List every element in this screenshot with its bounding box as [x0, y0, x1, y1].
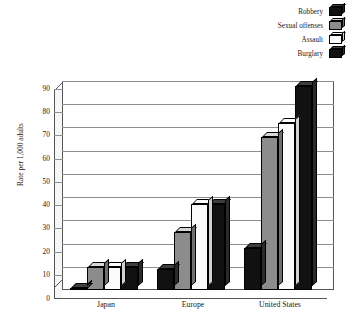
bar-side-face — [174, 261, 179, 286]
legend-item-assault: Assault — [225, 34, 345, 47]
gridline — [62, 104, 334, 105]
legend-swatch-face-assault — [329, 35, 342, 44]
legend-swatch-face-burglary — [329, 49, 342, 58]
legend-swatch-face-robbery — [329, 7, 342, 16]
bar-front-face — [244, 248, 261, 290]
legend-swatch-face-sexual-offenses — [329, 21, 342, 30]
gridline — [62, 81, 334, 82]
gridline-depth — [54, 182, 63, 183]
y-tick-label: 40 — [24, 201, 50, 208]
y-tick-label: 90 — [24, 85, 50, 92]
legend-item-sexual-offenses: Sexual offenses — [225, 20, 345, 33]
bar-side-face — [312, 77, 317, 286]
bar-front-face — [87, 267, 104, 290]
legend-swatch-side-sexual-offenses — [342, 17, 345, 28]
legend-swatch-burglary — [329, 49, 345, 60]
legend-label-burglary: Burglary — [298, 50, 323, 59]
bar-side-face — [191, 224, 196, 286]
axis-bottom-bevel — [53, 278, 65, 290]
x-axis-line — [54, 298, 327, 299]
y-tick-label: 80 — [24, 108, 50, 115]
bar-japan-robbery — [70, 288, 87, 290]
legend-swatch-side-assault — [342, 31, 345, 42]
axis-top-bevel — [53, 81, 65, 93]
y-tick-label: 0 — [24, 295, 50, 302]
legend-swatch-sexual-offenses — [329, 21, 345, 32]
gridline-depth — [54, 135, 63, 136]
gridline-depth — [54, 252, 63, 253]
bar-side-face — [208, 196, 213, 286]
legend-label-assault: Assault — [301, 36, 323, 45]
bar-europe-robbery — [157, 269, 174, 290]
y-tick-label: 10 — [24, 271, 50, 278]
x-axis-labels: JapanEuropeUnited States — [52, 300, 352, 314]
plot-area: 0102030405060708090 — [62, 81, 334, 290]
x-axis-label-europe: Europe — [153, 300, 233, 310]
bar-side-face — [138, 259, 143, 286]
x-axis-label-united-states: United States — [240, 300, 320, 310]
bar-front-face — [157, 269, 174, 290]
bar-side-face — [225, 196, 230, 286]
gridline-depth — [54, 205, 63, 206]
gridline-depth — [54, 112, 63, 113]
y-tick-label: 70 — [24, 131, 50, 138]
y-tick-label: 30 — [24, 224, 50, 231]
bar-front-face — [70, 288, 87, 290]
bar-japan-sexual-offenses — [87, 267, 104, 290]
gridline-depth — [54, 228, 63, 229]
legend-swatch-robbery — [329, 7, 345, 18]
legend-swatch-assault — [329, 35, 345, 46]
legend-swatch-side-robbery — [342, 3, 345, 14]
bar-side-face — [295, 115, 300, 286]
bar-chart: Robbery Sexual offenses Assault — [0, 0, 353, 326]
gridline-depth — [54, 89, 63, 90]
gridline-depth — [54, 159, 63, 160]
legend-label-robbery: Robbery — [298, 8, 323, 17]
y-tick-label: 50 — [24, 178, 50, 185]
legend-item-robbery: Robbery — [225, 6, 345, 19]
bar-side-face — [121, 259, 126, 286]
y-tick-label: 60 — [24, 155, 50, 162]
x-axis-label-japan: Japan — [66, 300, 146, 310]
plot-left-wall — [54, 89, 62, 298]
y-axis-line — [54, 89, 55, 299]
bar-united-states-robbery — [244, 248, 261, 290]
legend-item-burglary: Burglary — [225, 48, 345, 61]
legend-swatch-side-burglary — [342, 45, 345, 56]
bar-side-face — [261, 240, 266, 286]
gridline-depth — [54, 275, 63, 276]
y-tick-label: 20 — [24, 248, 50, 255]
bar-side-face — [104, 259, 109, 286]
bar-side-face — [278, 129, 283, 286]
legend-label-sexual-offenses: Sexual offenses — [278, 22, 323, 31]
chart-legend: Robbery Sexual offenses Assault — [225, 6, 345, 62]
